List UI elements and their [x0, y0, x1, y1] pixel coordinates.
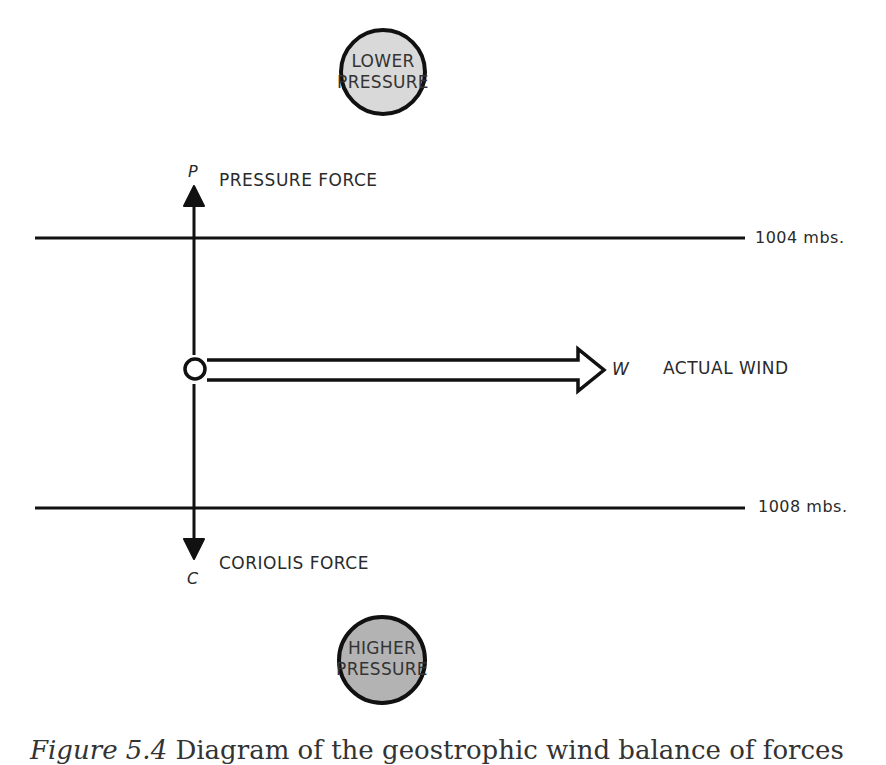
- lower-pressure-label: LOWER PRESSURE: [333, 51, 433, 93]
- pressure-force-symbol: P: [188, 162, 198, 181]
- isobar-1004-label: 1004 mbs.: [755, 228, 844, 247]
- lower-pressure-line2: PRESSURE: [333, 72, 433, 93]
- air-parcel-icon: [185, 359, 205, 379]
- figure-number: Figure 5.4: [30, 735, 167, 765]
- higher-pressure-line1: HIGHER: [332, 638, 432, 659]
- pressure-force-label: PRESSURE FORCE: [219, 170, 378, 190]
- isobar-1008-label: 1008 mbs.: [758, 497, 847, 516]
- coriolis-force-symbol: C: [187, 569, 199, 588]
- pressure-force-arrowhead-icon: [184, 186, 204, 206]
- wind-label: ACTUAL WIND: [663, 358, 789, 378]
- wind-symbol: W: [612, 359, 629, 379]
- coriolis-force-label: CORIOLIS FORCE: [219, 553, 369, 573]
- coriolis-force-arrowhead-icon: [184, 539, 204, 559]
- higher-pressure-label: HIGHER PRESSURE: [332, 638, 432, 680]
- lower-pressure-line1: LOWER: [333, 51, 433, 72]
- figure-caption: Figure 5.4 Diagram of the geostrophic wi…: [30, 735, 844, 765]
- higher-pressure-line2: PRESSURE: [332, 659, 432, 680]
- wind-arrow-icon: [207, 349, 604, 391]
- figure-caption-text: Diagram of the geostrophic wind balance …: [175, 735, 843, 765]
